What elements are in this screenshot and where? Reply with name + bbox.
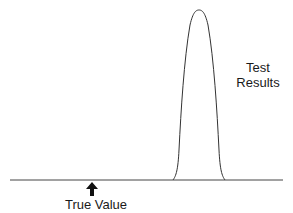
test-results-curve xyxy=(173,10,225,180)
true-value-arrow-icon xyxy=(86,182,98,196)
test-results-label: Test Results xyxy=(228,60,288,90)
true-value-label: True Value xyxy=(56,197,136,212)
diagram-graphics xyxy=(0,0,293,213)
test-results-label-line1: Test xyxy=(228,60,288,75)
test-results-label-line2: Results xyxy=(228,75,288,90)
diagram-canvas: Test Results True Value xyxy=(0,0,293,213)
